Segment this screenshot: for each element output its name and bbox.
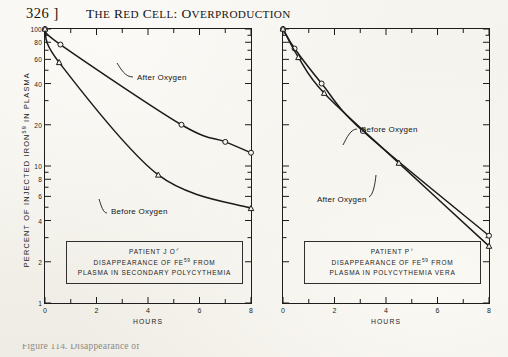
y-axis-tick-80: 80 bbox=[34, 39, 42, 46]
x-axis-tick-2: 2 bbox=[95, 307, 99, 314]
y-axis-tick-2: 2 bbox=[38, 258, 42, 265]
info-left-line2-pre: DISAPPEARANCE OF FE bbox=[93, 259, 183, 266]
info-left-line2-sup: 59 bbox=[184, 258, 191, 263]
x-axis-tick-8: 8 bbox=[487, 307, 491, 314]
info-left-patient: PATIENT J O bbox=[129, 248, 176, 255]
curve-label-after-oxygen-right: After Oxygen bbox=[317, 195, 367, 204]
info-right-line2-sup: 59 bbox=[422, 258, 429, 263]
sex-female-icon: ♀ bbox=[410, 247, 414, 252]
plot-area-right: HOURS Before Oxygen After Oxygen PATIENT… bbox=[282, 28, 490, 304]
caption-strip: Figure 114. Disappearance of bbox=[0, 344, 508, 357]
x-axis-tick-4: 4 bbox=[146, 307, 150, 314]
curve-label-before-oxygen-left: Before Oxygen bbox=[111, 207, 168, 216]
sex-male-icon: ♂ bbox=[176, 247, 180, 252]
x-axis-label-left: HOURS bbox=[133, 318, 163, 325]
info-right-line2-pre: DISAPPEARANCE OF FE bbox=[331, 259, 421, 266]
x-axis-tick-4: 4 bbox=[384, 307, 388, 314]
curve-label-after-oxygen-left: After Oxygen bbox=[137, 73, 187, 82]
info-left-line3: PLASMA IN SECONDARY POLYCYTHEMIA bbox=[73, 268, 236, 278]
x-axis-tick-0: 0 bbox=[43, 307, 47, 314]
y-axis-tick-6: 6 bbox=[38, 193, 42, 200]
y-axis-tick-40: 40 bbox=[34, 80, 42, 87]
running-title-text: THE RED CELL: OVERPRODUCTION bbox=[86, 6, 291, 21]
x-axis-tick-8: 8 bbox=[249, 307, 253, 314]
y-axis-tick-100: 100 bbox=[30, 26, 42, 33]
x-axis-tick-6: 6 bbox=[198, 307, 202, 314]
running-title: THE RED CELL: OVERPRODUCTION bbox=[86, 6, 291, 22]
x-axis-label-right: HOURS bbox=[371, 318, 401, 325]
y-axis-tick-10: 10 bbox=[34, 163, 42, 170]
y-axis-tick-1: 1 bbox=[38, 300, 42, 307]
panel-left: HOURS After Oxygen Before Oxygen PATIENT… bbox=[20, 22, 270, 342]
curve-label-before-oxygen-right: Before Oxygen bbox=[361, 125, 418, 134]
y-axis-tick-60: 60 bbox=[34, 56, 42, 63]
info-right-patient: PATIENT P bbox=[371, 248, 410, 255]
figure: PERCENT OF INJECTED IRON59 IN PLASMA HOU… bbox=[0, 22, 508, 342]
panel-right: HOURS Before Oxygen After Oxygen PATIENT… bbox=[268, 22, 508, 342]
x-axis-tick-0: 0 bbox=[281, 307, 285, 314]
info-left-line1: PATIENT J O♂ bbox=[73, 246, 236, 257]
y-axis-tick-20: 20 bbox=[34, 121, 42, 128]
x-axis-tick-6: 6 bbox=[436, 307, 440, 314]
figure-caption: Figure 114. Disappearance of bbox=[22, 344, 140, 351]
x-axis-tick-2: 2 bbox=[333, 307, 337, 314]
info-right-line2-post: FROM bbox=[429, 259, 454, 266]
info-left-line2-post: FROM bbox=[191, 259, 216, 266]
y-axis-tick-4: 4 bbox=[38, 217, 42, 224]
info-box-left: PATIENT J O♂ DISAPPEARANCE OF FE59 FROM … bbox=[66, 241, 243, 284]
folio-number: 326 ] bbox=[26, 5, 59, 22]
info-right-line1: PATIENT P♀ bbox=[311, 246, 474, 257]
info-left-line2: DISAPPEARANCE OF FE59 FROM bbox=[73, 257, 236, 268]
y-axis-tick-8: 8 bbox=[38, 176, 42, 183]
info-right-line2: DISAPPEARANCE OF FE59 FROM bbox=[311, 257, 474, 268]
plot-area-left: HOURS After Oxygen Before Oxygen PATIENT… bbox=[44, 28, 252, 304]
info-box-right: PATIENT P♀ DISAPPEARANCE OF FE59 FROM PL… bbox=[304, 241, 481, 284]
info-right-line3: PLASMA IN POLYCYTHEMIA VERA bbox=[311, 268, 474, 278]
